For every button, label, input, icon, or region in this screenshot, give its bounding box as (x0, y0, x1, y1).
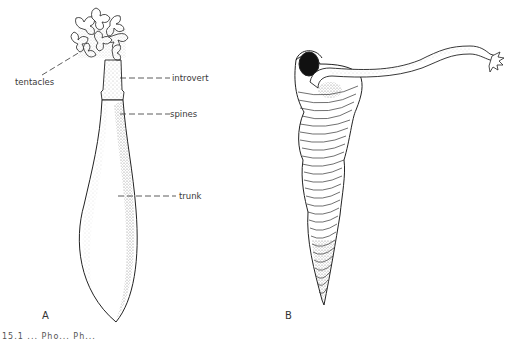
label-spines: spines (170, 110, 197, 119)
figure-caption-partial: 15.1 ... Pho... Ph... (2, 333, 96, 341)
introvert-outline (101, 60, 124, 100)
label-tentacles: tentacles (15, 78, 54, 87)
panel-letter-b: B (285, 311, 292, 321)
label-trunk: trunk (179, 192, 202, 201)
specimen-a (71, 8, 137, 322)
figure: tentacles introvert spines trunk A B 15.… (0, 0, 525, 341)
specimen-b (295, 46, 504, 305)
panel-letter-a: A (42, 311, 49, 321)
label-introvert: introvert (172, 74, 209, 83)
